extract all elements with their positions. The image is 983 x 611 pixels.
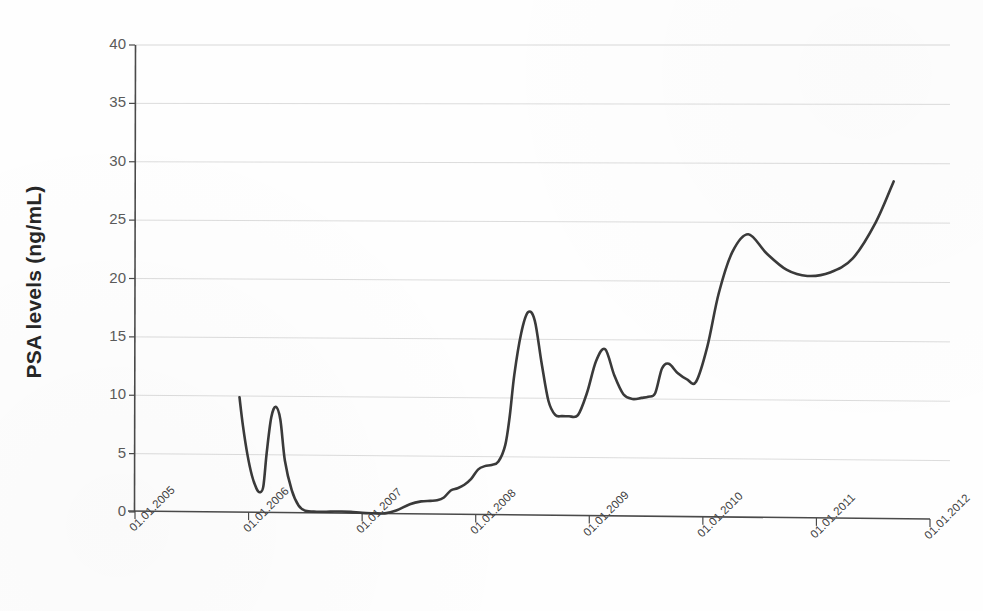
gridline: [135, 395, 950, 401]
gridline: [135, 337, 950, 342]
gridline: [135, 162, 950, 164]
y-axis-line: [135, 45, 136, 512]
psa-chart-figure: PSA levels (ng/mL) 0510152025303540 01.0…: [0, 0, 983, 611]
gridline: [135, 279, 950, 283]
psa-series-line: [239, 181, 893, 513]
gridline: [135, 220, 950, 223]
gridlines: [135, 45, 950, 461]
gridline: [135, 103, 950, 104]
gridline: [135, 454, 950, 461]
